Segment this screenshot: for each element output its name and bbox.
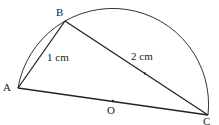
- label-ab-length: 1 cm: [47, 51, 69, 63]
- label-bc-length: 2 cm: [131, 50, 153, 62]
- label-o: O: [107, 104, 115, 116]
- segment-bc: [65, 21, 208, 115]
- label-a: A: [3, 81, 11, 93]
- label-b: B: [56, 6, 63, 18]
- semicircle-diagram: A B C O 1 cm 2 cm: [0, 0, 219, 125]
- label-c: C: [203, 115, 210, 125]
- center-point-o: [112, 100, 114, 102]
